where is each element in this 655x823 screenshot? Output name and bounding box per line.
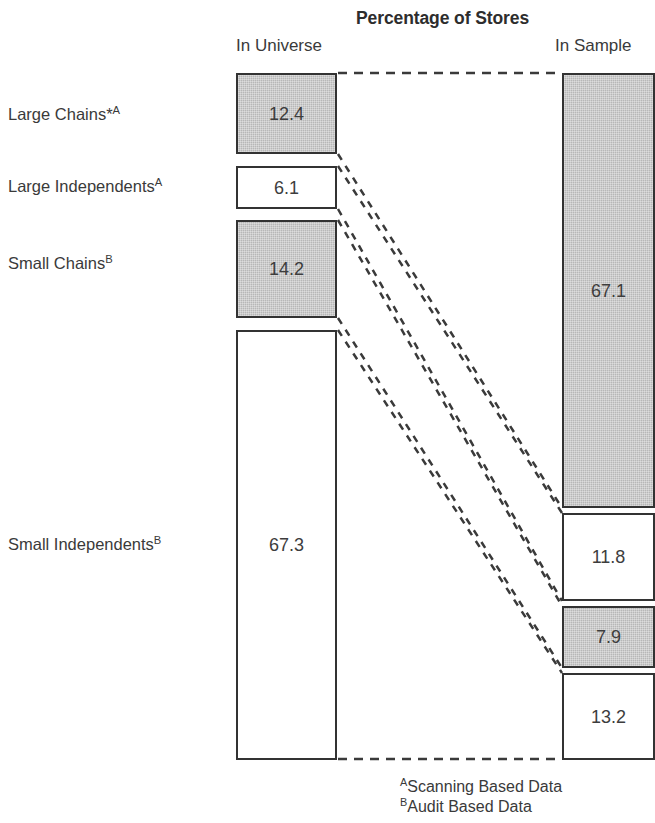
connector-small-chains-upper — [338, 220, 562, 606]
bar-value: 7.9 — [596, 628, 621, 646]
footnote-a: AScanning Based Data — [400, 777, 655, 797]
row-label-text: Small Chains — [8, 254, 105, 272]
bar-universe-small-chains[interactable]: 14.2 — [236, 220, 337, 318]
bar-sample-small-independents[interactable]: 13.2 — [562, 673, 655, 760]
row-label-small-independents: Small IndependentsB — [8, 535, 228, 554]
row-label-large-chains: Large Chains*A — [8, 105, 228, 124]
column-header-in-sample: In Sample — [555, 36, 632, 56]
bar-universe-small-independents[interactable]: 67.3 — [236, 330, 337, 760]
footnote-b: BAudit Based Data — [400, 797, 655, 817]
bar-sample-large-independents[interactable]: 11.8 — [562, 513, 655, 601]
bar-value: 67.1 — [591, 282, 626, 300]
bar-value: 6.1 — [274, 179, 299, 197]
footnotes: AScanning Based Data BAudit Based Data — [400, 777, 655, 817]
bar-sample-large-chains[interactable]: 67.1 — [562, 73, 655, 508]
row-label-small-chains: Small ChainsB — [8, 254, 228, 273]
row-label-text: Small Independents — [8, 535, 154, 553]
connector-small-independents-upper — [338, 330, 562, 673]
column-header-in-universe: In Universe — [236, 36, 322, 56]
bar-value: 11.8 — [592, 548, 626, 566]
bar-value: 12.4 — [269, 105, 304, 123]
row-label-text: Large Chains* — [8, 105, 113, 123]
connector-small-chains-lower — [338, 318, 562, 668]
bar-value: 14.2 — [269, 260, 304, 278]
bar-universe-large-chains[interactable]: 12.4 — [236, 73, 337, 154]
chart-root: Percentage of Stores In Universe In Samp… — [0, 0, 655, 823]
connector-large-independents-lower — [338, 209, 562, 601]
chart-title: Percentage of Stores — [230, 8, 655, 29]
bar-universe-large-independents[interactable]: 6.1 — [236, 166, 337, 209]
row-label-superscript: B — [105, 253, 112, 265]
row-label-superscript: A — [155, 176, 162, 188]
row-label-superscript: B — [154, 534, 161, 546]
footnote-text: Audit Based Data — [407, 798, 532, 815]
bar-sample-small-chains[interactable]: 7.9 — [562, 606, 655, 668]
connector-large-chains-lower — [338, 154, 562, 508]
connector-large-independents-upper — [338, 166, 562, 513]
bar-value: 13.2 — [591, 708, 626, 726]
row-label-superscript: A — [113, 104, 120, 116]
row-label-large-independents: Large IndependentsA — [8, 177, 228, 196]
row-label-text: Large Independents — [8, 177, 155, 195]
bar-value: 67.3 — [269, 536, 304, 554]
footnote-text: Scanning Based Data — [407, 778, 562, 795]
